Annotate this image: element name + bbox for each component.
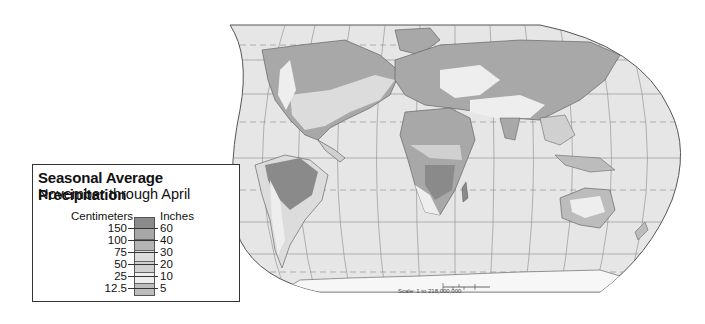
swatch-class-3 <box>135 240 154 251</box>
legend-subtitle: November through April <box>38 186 190 202</box>
swatch-class-6 <box>135 273 154 284</box>
tick-in: 10 <box>160 271 173 282</box>
legend-tickline <box>128 276 158 277</box>
tick-in: 30 <box>160 247 173 258</box>
tick-in: 20 <box>160 259 173 270</box>
swatch-class-7 <box>135 284 154 295</box>
tick-cm: 25 <box>114 271 127 282</box>
legend-tickline <box>128 288 158 289</box>
tick-cm: 100 <box>108 235 127 246</box>
legend-tickline <box>128 252 158 253</box>
tick-cm: 75 <box>114 247 127 258</box>
scale-bar-icon <box>442 279 502 295</box>
tick-in: 40 <box>160 235 173 246</box>
swatch-class-2 <box>135 229 154 240</box>
tick-in: 60 <box>160 223 173 234</box>
legend: Seasonal Average Precipitation November … <box>32 164 240 302</box>
scale-bar <box>442 279 502 296</box>
units-inches: Inches <box>160 210 194 222</box>
legend-tickline <box>128 264 158 265</box>
legend-tickline <box>128 240 158 241</box>
units-centimeters: Centimeters <box>71 210 133 222</box>
tick-cm: 150 <box>108 223 127 234</box>
legend-tickline <box>128 228 158 229</box>
tick-in: 5 <box>160 283 166 294</box>
tick-cm: 12.5 <box>105 283 127 294</box>
tick-cm: 50 <box>114 259 127 270</box>
